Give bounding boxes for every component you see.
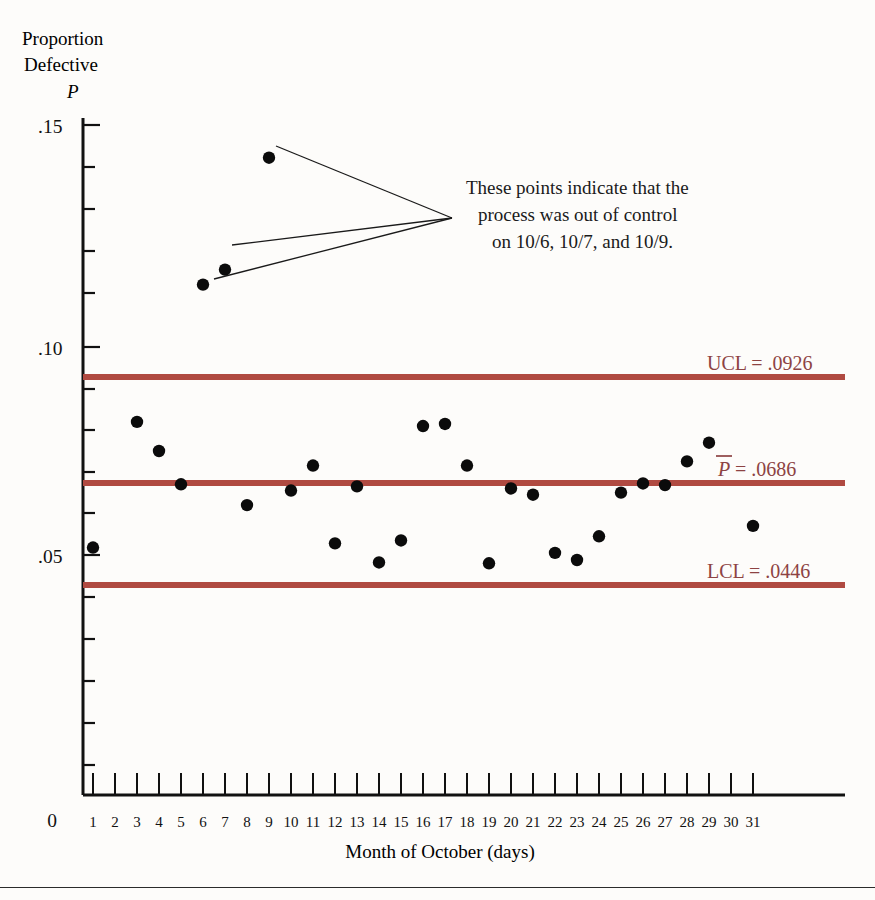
center-line-value: = .0686 [735,458,796,480]
x-tick-label: 20 [504,814,519,830]
data-point [637,477,649,489]
x-tick-label: 6 [199,814,207,830]
data-point [483,557,495,569]
data-point [241,499,253,511]
data-point [439,418,451,430]
y-tick-label-10: .10 [38,338,62,359]
data-point-out-of-control [219,263,231,275]
x-tick-label: 28 [680,814,695,830]
x-tick-label: 15 [394,814,409,830]
x-tick-label: 25 [614,814,629,830]
x-tick-label: 23 [570,814,585,830]
x-tick-label: 2 [111,814,119,830]
y-axis-label-line-2: Defective [24,54,98,75]
data-point [461,459,473,471]
x-tick-label: 7 [221,814,229,830]
data-point [527,488,539,500]
x-axis-ticks [93,773,753,795]
footer-divider [0,887,875,888]
data-point-out-of-control [197,278,209,290]
data-point [351,480,363,492]
x-tick-label: 9 [265,814,273,830]
x-tick-label: 29 [702,814,717,830]
data-point-out-of-control [263,152,275,164]
data-point [307,459,319,471]
x-tick-label: 12 [328,814,343,830]
annotation-leader-lines [214,146,452,279]
y-axis-label-line-1: Proportion [22,28,104,49]
x-tick-label: 16 [416,814,432,830]
x-tick-label: 26 [636,814,652,830]
x-tick-label: 13 [350,814,365,830]
x-tick-label: 10 [284,814,299,830]
chart-page: Proportion Defective P .15 .10 .05 [0,0,875,900]
data-point [747,520,759,532]
center-line-symbol: P [717,458,730,480]
data-point [153,445,165,457]
data-point [659,479,671,491]
data-point [681,455,693,467]
x-tick-label: 5 [177,814,185,830]
x-tick-label: 14 [372,814,388,830]
y-tick-label-05: .05 [38,546,62,567]
data-point [615,486,627,498]
annotation-line-3: on 10/6, 10/7, and 10/9. [492,231,673,252]
x-tick-label: 31 [746,814,761,830]
center-line-label: P = .0686 [716,456,796,480]
lcl-label: LCL = .0446 [707,560,810,582]
x-tick-label: 30 [724,814,739,830]
data-point [373,556,385,568]
annotation-line-2: process was out of control [478,204,677,225]
x-tick-label: 4 [155,814,163,830]
annotation-line-1: These points indicate that the [466,177,689,198]
y-axis-ticks [83,125,100,765]
x-tick-label: 11 [306,814,320,830]
x-tick-label: 27 [658,814,674,830]
x-tick-label: 18 [460,814,475,830]
y-axis-label-symbol: P [66,81,79,102]
x-tick-label: 21 [526,814,541,830]
control-chart: Proportion Defective P .15 .10 .05 [0,0,875,900]
x-tick-label: 8 [243,814,251,830]
data-point [175,478,187,490]
data-point [703,436,715,448]
data-point [329,537,341,549]
data-point [395,534,407,546]
ucl-label: UCL = .0926 [707,352,813,374]
data-point [571,554,583,566]
x-axis-tick-labels: 1234567891011121314151617181920212223242… [89,814,760,830]
annotation-text: These points indicate that the process w… [466,177,689,252]
x-axis-caption: Month of October (days) [345,841,534,863]
data-point [285,484,297,496]
x-tick-label: 17 [438,814,454,830]
y-tick-label-15: .15 [38,116,62,137]
origin-label: 0 [47,810,57,831]
data-point [87,541,99,553]
data-point [549,547,561,559]
x-tick-label: 3 [133,814,141,830]
x-tick-label: 24 [592,814,608,830]
x-tick-label: 1 [89,814,97,830]
data-point [417,420,429,432]
x-tick-label: 19 [482,814,497,830]
data-point [593,530,605,542]
data-point [505,482,517,494]
data-point [131,416,143,428]
x-tick-label: 22 [548,814,563,830]
